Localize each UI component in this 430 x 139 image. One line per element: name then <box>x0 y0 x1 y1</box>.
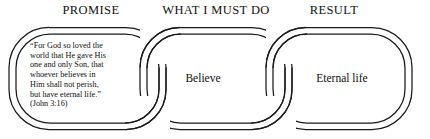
promise-scripture-text: “For God so loved the world that He gave… <box>30 41 138 109</box>
what-i-must-do-text: Believe <box>160 72 246 84</box>
result-text: Eternal life <box>286 72 398 84</box>
chain-link-diagram: PROMISE WHAT I MUST DO RESULT <box>0 0 430 139</box>
